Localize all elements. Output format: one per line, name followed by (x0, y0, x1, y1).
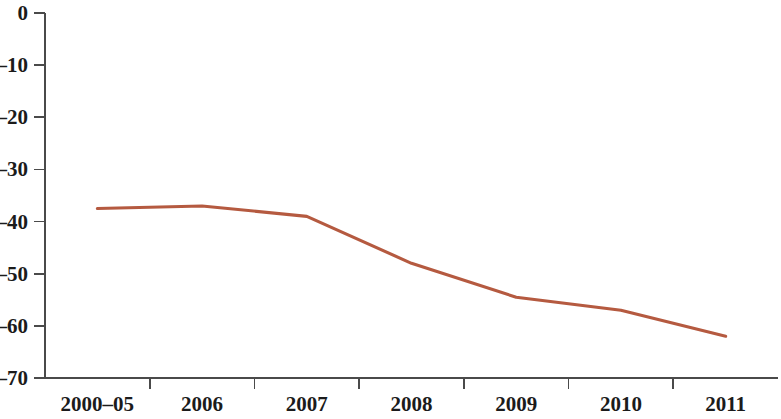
y-axis-tick-label: –50 (0, 262, 28, 286)
y-axis-tick-label: –60 (0, 314, 28, 338)
x-axis-tick-label: 2011 (705, 392, 746, 416)
x-axis-tick-label: 2007 (286, 392, 328, 416)
chart-canvas: 0–10–20–30–40–50–60–70 2000–052006200720… (0, 0, 781, 419)
y-axis-tick-label: –20 (0, 105, 28, 129)
x-axis-tick-label: 2009 (495, 392, 537, 416)
y-axis-tick-label: –40 (0, 210, 28, 234)
data-series-group (97, 206, 725, 336)
y-axis-tick-label: –70 (0, 366, 28, 390)
x-axis-tick-label: 2008 (391, 392, 433, 416)
line-chart: 0–10–20–30–40–50–60–70 2000–052006200720… (0, 0, 781, 419)
x-axis-tick-label: 2010 (600, 392, 642, 416)
x-axis: 2000–05200620072008200920102011 (45, 378, 778, 416)
x-axis-tick-label: 2006 (181, 392, 223, 416)
y-axis: 0–10–20–30–40–50–60–70 (0, 1, 45, 390)
x-axis-tick-label: 2000–05 (61, 392, 135, 416)
series-line-series-1 (97, 206, 725, 336)
y-axis-tick-label: –10 (0, 53, 28, 77)
y-axis-tick-label: –30 (0, 157, 28, 181)
y-axis-tick-label: 0 (18, 1, 29, 25)
